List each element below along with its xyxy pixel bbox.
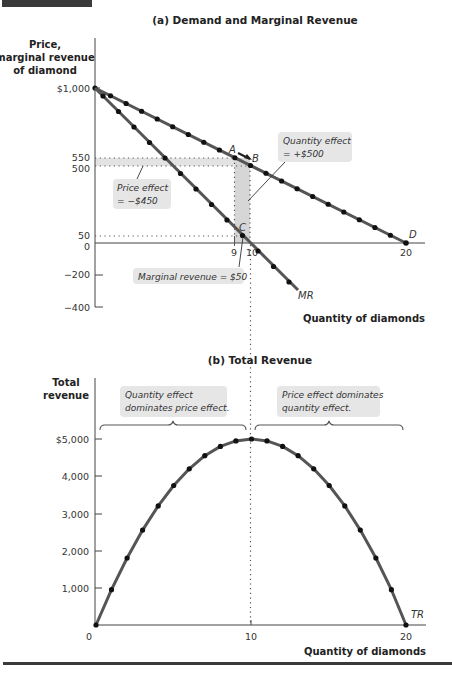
tr-label: TR <box>411 609 424 620</box>
a-tick-m400: −400 <box>64 302 90 313</box>
b-tick-5000: $5,000 <box>56 434 89 445</box>
b-tick-1000: 1,000 <box>62 583 89 594</box>
a-tick-1000: $1,000 <box>57 83 90 94</box>
header-bar <box>2 0 92 7</box>
panel-b-ylabel-line2: revenue <box>43 390 89 401</box>
b-tick-3000: 3,000 <box>62 509 89 520</box>
point-a-label: A <box>228 144 236 155</box>
panel-a-ylabel-line3: of diamond <box>13 65 77 76</box>
pe-line1: Price effect <box>117 183 168 193</box>
a-xtick-20: 20 <box>400 247 412 258</box>
a-xtick-9: 9 <box>231 247 237 258</box>
mr-label: MR <box>298 290 314 301</box>
figure: (a) Demand and Marginal Revenue Price, m… <box>0 0 452 674</box>
panel-a-ylabel-line2: marginal revenue <box>0 52 95 63</box>
b-xtick-20: 20 <box>400 631 412 642</box>
a-tick-0: 0 <box>84 241 90 252</box>
brace-left-line1: Quantity effect <box>125 390 193 400</box>
panel-b-ylabel-line1: Total <box>52 377 79 388</box>
a-tick-500: 500 <box>72 163 90 174</box>
brace-right-line1: Price effect dominates <box>282 390 384 400</box>
point-c-label: C <box>239 222 246 233</box>
panel-a-xlabel: Quantity of diamonds <box>303 313 425 324</box>
left-brace <box>100 421 246 430</box>
pe-line2: = −$450 <box>117 196 158 206</box>
qe-line2: = +$500 <box>283 149 324 159</box>
panel-b-title: (b) Total Revenue <box>208 354 312 366</box>
b-xtick-10: 10 <box>245 631 257 642</box>
panel-a-ylabel-line1: Price, <box>29 39 61 50</box>
bottom-rule <box>3 662 452 665</box>
point-b-label: B <box>252 153 259 164</box>
panel-a-title: (a) Demand and Marginal Revenue <box>152 14 357 26</box>
panel-b-xlabel: Quantity of diamonds <box>304 646 426 657</box>
point-d-label: D <box>409 229 417 240</box>
brace-left-line2: dominates price effect. <box>125 403 230 413</box>
qe-line1: Quantity effect <box>283 136 351 146</box>
b-tick-2000: 2,000 <box>62 546 89 557</box>
a-tick-m200: −200 <box>64 269 90 280</box>
right-brace <box>255 421 403 430</box>
brace-right-line2: quantity effect. <box>282 403 351 413</box>
a-tick-50: 50 <box>78 230 90 241</box>
b-tick-4000: 4,000 <box>62 471 89 482</box>
b-xtick-0: 0 <box>86 631 92 642</box>
mr50-text: Marginal revenue = $50 <box>138 272 248 282</box>
a-tick-550: 550 <box>72 152 90 163</box>
